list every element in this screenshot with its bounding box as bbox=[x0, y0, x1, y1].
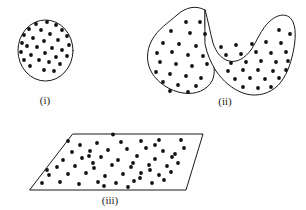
region-dot bbox=[184, 74, 188, 78]
region-dot bbox=[65, 54, 69, 58]
region-dot bbox=[92, 166, 96, 170]
region-dot bbox=[45, 168, 49, 172]
region-dot bbox=[56, 38, 60, 42]
region-dot bbox=[263, 77, 267, 81]
region-dot bbox=[102, 184, 106, 188]
region-dot bbox=[194, 44, 198, 48]
region-dot bbox=[274, 60, 278, 64]
region-dot bbox=[55, 165, 59, 169]
region-dot bbox=[119, 140, 123, 144]
region-dot bbox=[190, 64, 194, 68]
region-dot bbox=[31, 36, 35, 40]
region-dot bbox=[45, 20, 49, 24]
region-dot bbox=[174, 62, 178, 66]
region-dot bbox=[256, 68, 260, 72]
region-dot bbox=[66, 172, 70, 176]
region-dot bbox=[279, 41, 283, 45]
region-dot bbox=[77, 182, 81, 186]
region-dot bbox=[138, 176, 142, 180]
region-dot bbox=[22, 33, 26, 37]
region-dot bbox=[19, 50, 23, 54]
region-dot bbox=[199, 76, 203, 80]
region-dot bbox=[65, 34, 69, 38]
region-dot bbox=[135, 154, 139, 158]
region-dot bbox=[198, 20, 202, 24]
region-dot bbox=[111, 133, 115, 137]
panel-i-group: (i) bbox=[18, 20, 73, 107]
region-dot bbox=[87, 154, 91, 158]
region-dot bbox=[229, 61, 233, 65]
region-dot bbox=[170, 50, 174, 54]
region-dot bbox=[219, 45, 223, 49]
region-dot bbox=[161, 149, 165, 153]
region-dot bbox=[271, 69, 275, 73]
region-dot bbox=[34, 22, 38, 26]
circle-region-outline bbox=[18, 20, 73, 81]
double-blob-right-lobe-outline bbox=[205, 10, 295, 95]
region-dot bbox=[29, 53, 33, 57]
region-dot bbox=[110, 163, 114, 167]
region-dot bbox=[205, 62, 209, 66]
region-dot bbox=[73, 164, 77, 168]
region-dot bbox=[155, 51, 159, 55]
region-dot bbox=[99, 155, 103, 159]
region-dot bbox=[173, 152, 177, 156]
region-dot bbox=[70, 150, 74, 154]
region-dot bbox=[154, 70, 158, 74]
region-dot bbox=[277, 28, 281, 32]
region-dot bbox=[170, 155, 174, 159]
region-dot bbox=[264, 40, 268, 44]
region-dot bbox=[114, 181, 118, 185]
region-dot bbox=[42, 68, 46, 72]
region-dot bbox=[66, 139, 70, 143]
region-dot bbox=[148, 168, 152, 172]
region-dot bbox=[158, 60, 162, 64]
region-dot bbox=[168, 72, 172, 76]
panel-ii-group: (ii) bbox=[148, 7, 296, 108]
region-dot bbox=[129, 165, 133, 169]
region-dot bbox=[157, 173, 161, 177]
region-dot bbox=[250, 42, 254, 46]
region-dot bbox=[144, 146, 148, 150]
region-dot bbox=[126, 185, 130, 189]
region-dot bbox=[52, 69, 56, 73]
region-dot bbox=[116, 158, 120, 162]
region-dot bbox=[248, 76, 252, 80]
region-dot bbox=[48, 32, 52, 36]
region-dot bbox=[54, 23, 58, 27]
region-dot bbox=[194, 84, 198, 88]
region-dot bbox=[84, 171, 88, 175]
region-dot bbox=[150, 181, 154, 185]
region-dot bbox=[161, 80, 165, 84]
region-dot bbox=[224, 53, 228, 57]
region-dot bbox=[186, 90, 190, 94]
region-dot bbox=[58, 180, 62, 184]
region-dot bbox=[132, 179, 136, 183]
region-dot bbox=[186, 53, 190, 57]
region-dot bbox=[165, 164, 169, 168]
panel-iii-label: (iii) bbox=[102, 194, 119, 207]
region-dot bbox=[139, 139, 143, 143]
region-dot bbox=[286, 59, 290, 63]
region-dot bbox=[201, 54, 205, 58]
region-dot bbox=[28, 64, 32, 68]
region-dot bbox=[184, 20, 188, 24]
region-dot bbox=[47, 60, 51, 64]
region-dot bbox=[277, 76, 281, 80]
region-dot bbox=[61, 158, 65, 162]
region-dot bbox=[139, 171, 143, 175]
region-dot bbox=[179, 138, 183, 142]
region-dot bbox=[39, 28, 43, 32]
region-dot bbox=[42, 39, 46, 43]
region-dot bbox=[88, 149, 92, 153]
region-dot bbox=[67, 43, 71, 47]
region-dot bbox=[256, 86, 260, 90]
region-dot bbox=[95, 141, 99, 145]
double-blob-left-lobe-outline bbox=[148, 7, 215, 93]
panel-i-label: (i) bbox=[40, 94, 51, 107]
region-dot bbox=[125, 147, 129, 151]
region-dot bbox=[43, 51, 47, 55]
region-dot bbox=[226, 69, 230, 73]
region-dot bbox=[37, 58, 41, 62]
region-dot bbox=[241, 68, 245, 72]
